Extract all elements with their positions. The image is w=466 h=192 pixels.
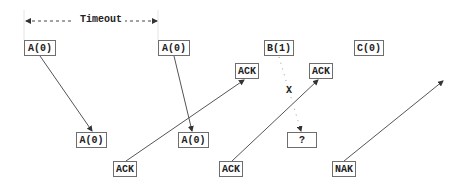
nak-arrow — [344, 81, 443, 161]
lost-frame-marker: X — [286, 85, 292, 96]
frame-box-a0-send-1: A(0) — [24, 40, 56, 56]
ack-box-send-1: ACK — [113, 161, 137, 177]
nak-box-send: NAK — [332, 161, 356, 177]
frame-box-b1-send: B(1) — [264, 40, 294, 56]
ack-2-arrow — [232, 80, 318, 161]
ack-box-send-2: ACK — [219, 161, 243, 177]
frame-box-a0-recv-1: A(0) — [76, 132, 107, 148]
frame-a0-1-arrow — [40, 56, 92, 131]
ack-1-arrow — [126, 80, 244, 161]
frame-box-unknown-recv: ? — [287, 132, 317, 148]
ack-box-received-2: ACK — [309, 63, 333, 79]
ack-box-received-1: ACK — [235, 63, 259, 79]
frame-a0-2-arrow — [174, 56, 192, 131]
frame-box-a0-recv-2: A(0) — [178, 132, 209, 148]
frame-box-c0-send: C(0) — [354, 40, 384, 56]
frame-box-a0-send-2: A(0) — [158, 40, 190, 56]
timeout-label: Timeout — [77, 14, 125, 25]
protocol-timing-diagram: Timeout X A(0) A(0) B(1) C(0) ACK ACK A(… — [0, 0, 466, 192]
